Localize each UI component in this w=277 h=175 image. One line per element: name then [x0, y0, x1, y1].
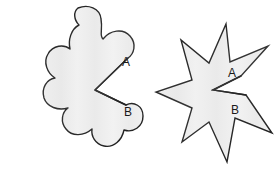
figure-canvas: A B A B: [0, 0, 277, 175]
star-label-a: A: [228, 66, 236, 80]
flower-shape: A B: [43, 6, 143, 146]
shapes-illustration: A B A B: [0, 0, 277, 175]
star-shape: A B: [156, 24, 272, 162]
star-label-b: B: [231, 103, 239, 117]
flower-label-b: B: [124, 105, 132, 119]
flower-label-a: A: [122, 55, 130, 69]
flower-shape-outline: [43, 6, 143, 146]
star-shape-outline: [156, 24, 272, 162]
